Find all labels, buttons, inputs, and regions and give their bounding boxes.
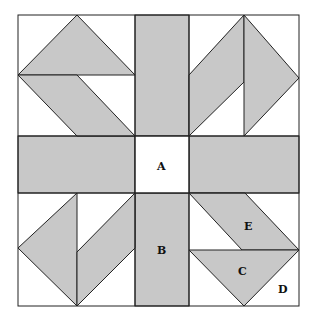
label-d: D — [278, 283, 288, 296]
tl-parallelogram — [18, 75, 135, 136]
tr-parallelogram — [189, 15, 244, 136]
bl-triangle — [18, 193, 77, 306]
label-a: A — [156, 160, 166, 173]
label-b: B — [157, 244, 166, 257]
top-strip — [135, 15, 189, 136]
tl-triangle — [18, 15, 135, 75]
bl-parallelogram — [77, 193, 135, 306]
label-e: E — [244, 220, 252, 233]
br-triangle-c — [189, 250, 299, 306]
left-strip — [18, 136, 135, 193]
tr-triangle — [244, 15, 299, 136]
label-c: C — [238, 265, 247, 278]
quilt-block-diagram: A B E C D — [0, 0, 315, 321]
right-strip — [189, 136, 299, 193]
